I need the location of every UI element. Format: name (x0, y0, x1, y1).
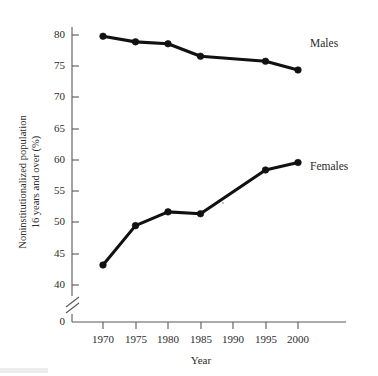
series-females: Females (100, 159, 349, 268)
data-point (165, 209, 172, 216)
x-axis-ticks (103, 322, 298, 329)
y-axis-label-line1: Noninstitutionalized population (17, 115, 28, 249)
data-point (197, 53, 204, 60)
y-tick-70: 70 (54, 90, 66, 102)
x-axis-title: Year (191, 354, 212, 366)
x-axis-tick-labels: 1970 1975 1980 1985 1990 1995 2000 (92, 333, 310, 345)
x-tick-1980: 1980 (157, 333, 180, 345)
x-tick-1985: 1985 (190, 333, 213, 345)
data-point (165, 40, 172, 47)
chart-container: Noninstitutionalized population 16 years… (0, 0, 378, 376)
y-axis-label-line2: 16 years and over (%) (30, 135, 42, 228)
x-tick-1990: 1990 (222, 333, 245, 345)
x-tick-1995: 1995 (255, 333, 278, 345)
y-axis-tick-labels: 80 75 70 65 60 55 50 45 40 0 (54, 28, 66, 327)
y-tick-45: 45 (54, 247, 66, 259)
scan-smudge (0, 368, 48, 373)
axis-break-slash-1 (66, 297, 79, 307)
data-point (197, 210, 204, 217)
x-tick-2000: 2000 (287, 333, 310, 345)
y-tick-55: 55 (54, 184, 66, 196)
data-point (100, 33, 107, 40)
x-tick-1975: 1975 (125, 333, 148, 345)
series-males: Males (100, 33, 339, 73)
axes (66, 27, 346, 322)
data-point (132, 222, 139, 229)
data-point (295, 159, 302, 166)
data-point (262, 58, 269, 65)
y-tick-60: 60 (54, 153, 66, 165)
series-males-points (100, 33, 302, 73)
y-tick-50: 50 (54, 215, 66, 227)
data-point (262, 167, 269, 174)
axis-break-slash-2 (66, 303, 79, 313)
y-tick-75: 75 (54, 59, 66, 71)
y-axis-ticks (72, 35, 79, 285)
y-tick-80: 80 (54, 28, 66, 40)
series-females-points (100, 159, 302, 268)
series-label-females: Females (310, 160, 349, 172)
scan-speck (222, 202, 224, 204)
y-tick-0: 0 (60, 315, 66, 327)
x-tick-1970: 1970 (92, 333, 115, 345)
line-chart: Noninstitutionalized population 16 years… (0, 0, 378, 376)
series-label-males: Males (310, 37, 339, 49)
y-tick-65: 65 (54, 122, 66, 134)
data-point (295, 67, 302, 74)
data-point (100, 262, 107, 269)
y-tick-40: 40 (54, 278, 66, 290)
data-point (132, 39, 139, 46)
y-axis-label: Noninstitutionalized population 16 years… (17, 115, 42, 249)
